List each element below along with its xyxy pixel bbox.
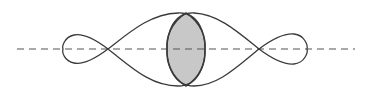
overlap-lobes-diagram [0, 0, 379, 92]
